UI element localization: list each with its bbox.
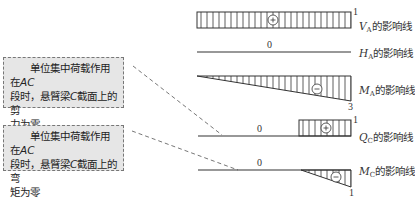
label-var: H xyxy=(359,47,368,59)
mc-zero-label: 0 xyxy=(257,157,262,168)
ma-end-value: 3 xyxy=(348,101,353,112)
note-text: 段时，悬臂梁 xyxy=(10,158,70,170)
ma-label: MA的影响线 xyxy=(359,82,415,98)
note-text: AC xyxy=(20,76,35,88)
mc-end-value: 1 xyxy=(349,187,354,198)
mc-influence-line xyxy=(198,170,351,187)
ma-influence-line xyxy=(197,76,351,101)
ha-zero-label: 0 xyxy=(267,39,272,50)
label-var: Q xyxy=(359,131,368,143)
label-suffix: 的影响线 xyxy=(373,131,413,143)
note-text: 矩为零 xyxy=(10,186,40,198)
note-text: 段时，悬臂梁 xyxy=(10,90,70,102)
ha-label: HA的影响线 xyxy=(359,45,413,61)
va-end-value: 1 xyxy=(353,6,358,17)
va-influence-line xyxy=(197,12,351,28)
qc-end-value: 1 xyxy=(353,114,358,125)
qc-influence-line xyxy=(198,120,351,136)
qc-zero-label: 0 xyxy=(257,123,262,134)
va-label: VA的影响线 xyxy=(359,18,412,34)
leader-line-2 xyxy=(132,131,238,170)
note-shear-zero: 单位集中荷载作用在AC 段时，悬臂梁C截面上的剪 力为零 xyxy=(3,57,124,108)
label-suffix: 的影响线 xyxy=(375,165,415,177)
label-var: V xyxy=(359,20,367,32)
label-suffix: 的影响线 xyxy=(373,47,413,59)
label-var: M xyxy=(359,84,370,96)
label-suffix: 的影响线 xyxy=(372,20,412,32)
label-suffix: 的影响线 xyxy=(375,84,415,96)
note-moment-zero: 单位集中荷载作用在AC 段时，悬臂梁C截面上的弯 矩为零 xyxy=(3,125,124,171)
label-var: M xyxy=(359,165,370,177)
mc-label: MC的影响线 xyxy=(359,163,415,179)
qc-label: QC的影响线 xyxy=(359,129,413,145)
note-text: AC xyxy=(20,144,35,156)
